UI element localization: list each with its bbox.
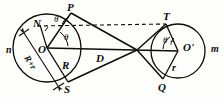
dimension-tick-bottom: [53, 83, 64, 90]
label-radius-R: R: [62, 60, 69, 71]
label-circle-n: n: [6, 45, 12, 55]
label-point-N: N: [33, 18, 41, 29]
angle-pointer-N: [45, 27, 48, 31]
label-center-O-prime: O': [183, 42, 194, 53]
label-point-Q: Q: [158, 82, 166, 93]
label-radius-r-upper: r: [170, 38, 174, 47]
label-center-O: O: [38, 44, 46, 55]
label-point-S: S: [64, 84, 70, 95]
dashed-reference-line: [37, 24, 166, 26]
center-line-D: [47, 48, 178, 51]
geometry-diagram: P S T Q N O O' n m R D r r θ θ θ R+r: [0, 0, 224, 103]
label-angle-theta-P: θ: [54, 15, 58, 24]
label-radius-r: r: [172, 63, 176, 73]
tangent-line-crossing-to-Q: [137, 50, 163, 79]
label-angle-theta-T: θ: [163, 36, 167, 45]
dimension-tick-top: [19, 29, 29, 36]
label-point-P: P: [67, 2, 74, 13]
label-circle-m: m: [211, 44, 219, 54]
label-point-T: T: [163, 11, 170, 22]
label-distance-D: D: [96, 53, 104, 64]
label-angle-theta-O: θ: [64, 33, 68, 42]
